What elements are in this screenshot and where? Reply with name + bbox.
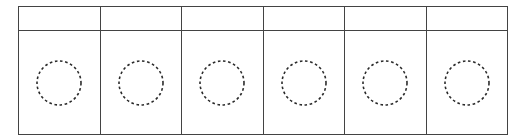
header-cell-2[interactable] [100,7,182,31]
body-cell-2[interactable] [100,31,182,135]
header-cell-6[interactable] [426,7,508,31]
dashed-circle-icon [444,60,490,106]
body-cell-3[interactable] [182,31,264,135]
header-cell-4[interactable] [263,7,345,31]
header-cell-1[interactable] [19,7,101,31]
header-cell-3[interactable] [182,7,264,31]
body-cell-6-content [427,31,508,134]
header-cell-5[interactable] [345,7,427,31]
body-cell-1[interactable] [19,31,101,135]
body-cell-6[interactable] [426,31,508,135]
body-row [19,31,508,135]
body-cell-1-content [19,31,100,134]
dashed-circle-icon [199,60,245,106]
body-cell-2-content [101,31,182,134]
body-cell-3-content [182,31,263,134]
body-cell-5[interactable] [345,31,427,135]
header-row [19,7,508,31]
dashed-circle-icon [36,60,82,106]
worksheet-page [0,0,526,140]
body-cell-4[interactable] [263,31,345,135]
dashed-circle-icon [118,60,164,106]
dashed-circle-icon [281,60,327,106]
body-cell-5-content [345,31,426,134]
dashed-circle-icon [362,60,408,106]
body-cell-4-content [264,31,345,134]
worksheet-body [19,7,508,135]
dashed-circle-worksheet [18,6,508,135]
